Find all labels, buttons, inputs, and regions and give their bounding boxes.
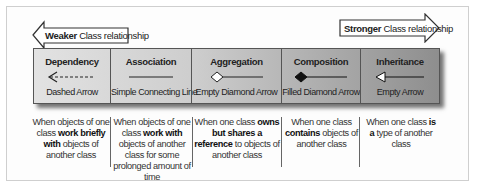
composition-notation: Filled Diamond Arrow [282,87,360,97]
desc-text: When one class [195,117,258,127]
filled-diamond-icon [293,71,349,83]
composition-title: Composition [282,56,360,67]
desc-bold: work with [143,128,182,138]
empty-arrow-icon [374,71,426,83]
dashed-arrow-icon [47,71,97,83]
column-composition: Composition Filled Diamond Arrow [281,49,360,103]
inheritance-title: Inheritance [361,56,439,67]
divider [192,117,193,167]
inheritance-notation: Empty Arrow [361,87,439,97]
column-association: Association Simple Connecting Line [110,49,191,103]
column-dependency: Dependency Dashed Arrow [34,49,110,103]
relationship-bar: Dependency Dashed Arrow Association Simp… [33,48,440,104]
association-description: When objects of one class work with obje… [113,117,191,183]
composition-description: When one class contains objects of anoth… [285,117,358,150]
solid-line-icon [127,71,175,83]
desc-text: When one class [366,117,429,127]
desc-text: objects of another class for some prolon… [113,139,191,182]
weaker-bold: Weaker [45,30,77,41]
weaker-rest: Class relationship [77,30,149,41]
association-title: Association [111,56,191,67]
divider [281,117,282,167]
column-aggregation: Aggregation Empty Diamond Arrow [191,49,281,103]
stronger-rest: Class relationship [381,23,453,34]
desc-text: When one class [291,117,351,127]
aggregation-title: Aggregation [192,56,281,67]
divider [359,117,360,167]
dependency-title: Dependency [34,56,110,67]
divider [110,117,111,167]
weaker-label: Weaker Class relationship [45,31,149,41]
empty-diamond-icon [209,71,265,83]
desc-text: type of another class [374,128,432,149]
stronger-bold: Stronger [344,23,381,34]
dependency-notation: Dashed Arrow [34,87,110,97]
inheritance-description: When one class is a type of another clas… [363,117,439,150]
aggregation-description: When one class owns but shares a referen… [194,117,280,161]
aggregation-notation: Empty Diamond Arrow [192,87,281,97]
desc-bold: contains [285,128,320,138]
association-notation: Simple Connecting Line [111,87,191,97]
dependency-description: When objects of one class work briefly w… [32,117,110,161]
stronger-label: Stronger Class relationship [344,24,453,34]
column-inheritance: Inheritance Empty Arrow [360,49,439,103]
